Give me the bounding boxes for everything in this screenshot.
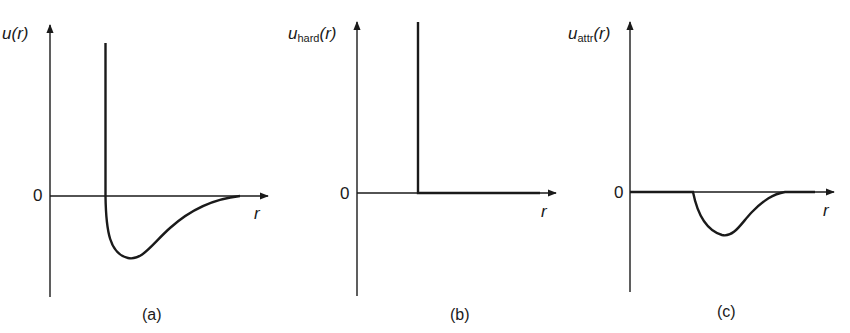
figure-canvas (0, 0, 850, 333)
zero-tick-c: 0 (614, 183, 623, 203)
panel-b (357, 22, 556, 296)
panel-a (50, 25, 268, 297)
x-axis-label-a: r (254, 204, 260, 224)
y-label-arg-a: (r) (11, 24, 28, 43)
y-axis-label-a: u(r) (2, 24, 28, 44)
panel-c (630, 22, 834, 292)
hard-sphere-curve-b (418, 22, 540, 193)
caption-a: (a) (142, 306, 162, 324)
caption-b: (b) (450, 306, 470, 324)
x-axis-label-b: r (541, 202, 547, 222)
y-label-arg-b: (r) (320, 24, 337, 43)
potential-curve-a (106, 43, 241, 258)
zero-tick-b: 0 (340, 184, 349, 204)
y-axis-label-b: uhard(r) (288, 24, 336, 44)
x-axis-label-c: r (823, 201, 829, 221)
y-label-arg-c: (r) (593, 24, 610, 43)
y-label-sub-b: hard (297, 32, 319, 44)
y-label-sub-c: attr (577, 32, 593, 44)
y-axis-label-c: uattr(r) (568, 24, 610, 44)
zero-tick-a: 0 (33, 186, 42, 206)
attractive-curve-c (630, 192, 815, 235)
caption-c: (c) (717, 303, 736, 321)
